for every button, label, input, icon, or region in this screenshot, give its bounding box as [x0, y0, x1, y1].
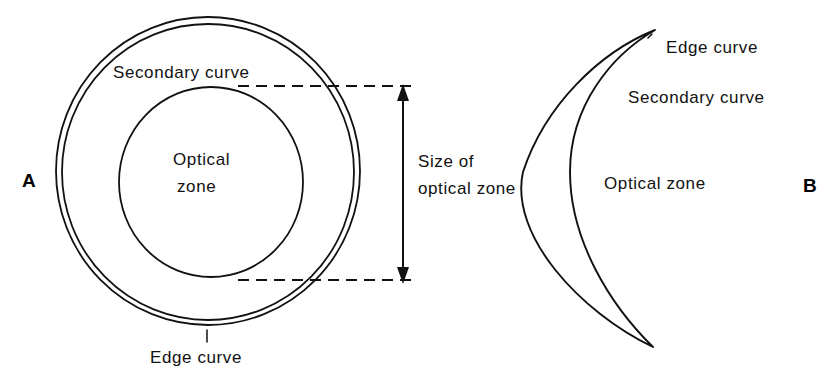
edge-curve-label-b: Edge curve: [666, 38, 758, 57]
optical-zone-label-a-line1: Optical: [173, 150, 230, 169]
size-of-optical-zone-line1: Size of: [418, 152, 474, 171]
figure-container: A Secondary curve Optical zone Edge curv…: [0, 0, 834, 387]
optical-zone-label-b: Optical zone: [604, 174, 706, 193]
secondary-curve-label-a: Secondary curve: [113, 63, 250, 82]
size-of-optical-zone-line2: optical zone: [418, 179, 516, 198]
panel-b-label: B: [803, 175, 817, 196]
panel-b-group: Edge curve Secondary curve Optical zone …: [521, 30, 817, 347]
panel-a-group: A Secondary curve Optical zone Edge curv…: [22, 17, 516, 367]
panel-a-label: A: [22, 170, 36, 191]
dimension-arrowhead-down: [397, 267, 409, 284]
secondary-curve-label-b: Secondary curve: [628, 88, 765, 107]
edge-curve-label-a: Edge curve: [150, 348, 242, 367]
lens-zones-diagram: A Secondary curve Optical zone Edge curv…: [0, 0, 834, 387]
optical-zone-label-a-line2: zone: [177, 177, 216, 196]
